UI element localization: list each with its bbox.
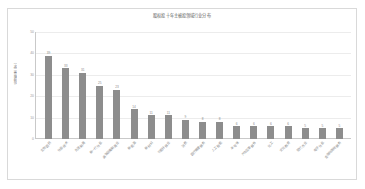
bar-value-label: 6 bbox=[236, 122, 238, 126]
bar-slot: 14 bbox=[126, 32, 143, 139]
y-axis-tick-label: 20 bbox=[30, 94, 34, 98]
x-axis-tick-label: 半导体 bbox=[230, 141, 240, 151]
bar-series: 39333125231411119886666555 bbox=[35, 32, 351, 139]
bar[interactable]: 5 bbox=[302, 128, 309, 139]
x-label-slot: 新能源 bbox=[126, 140, 143, 185]
bar[interactable]: 39 bbox=[45, 56, 52, 139]
bar-value-label: 6 bbox=[287, 122, 289, 126]
bar[interactable]: 8 bbox=[199, 122, 206, 139]
x-axis-tick-label: 电子信息 bbox=[313, 141, 325, 153]
x-label-slot: 新一代信息 bbox=[91, 140, 108, 185]
y-axis-tick-labels: 01020304050 bbox=[22, 32, 34, 139]
bar[interactable]: 14 bbox=[131, 109, 138, 139]
bar-slot: 5 bbox=[331, 32, 348, 139]
chart-container: 股权投十年主被投领域行业分布 投资数量（家） 01020304050 39333… bbox=[7, 8, 357, 180]
y-axis-tick-label: 40 bbox=[30, 51, 34, 55]
bar-slot: 39 bbox=[40, 32, 57, 139]
bar-slot: 8 bbox=[211, 32, 228, 139]
bar-value-label: 33 bbox=[64, 64, 68, 68]
x-label-slot: 半导体 bbox=[228, 140, 245, 185]
x-label-slot: 先进制造 bbox=[74, 140, 91, 185]
x-axis-tick-label: 新材料 bbox=[145, 141, 155, 151]
x-axis-tick-labels: 生物医药信息技术先进制造新一代信息高端装备制造业新能源新材料节能环保业消费医疗健… bbox=[35, 140, 351, 185]
bar[interactable]: 31 bbox=[79, 73, 86, 139]
x-label-slot: 现代农业 bbox=[297, 140, 314, 185]
bar[interactable]: 8 bbox=[216, 122, 223, 139]
bar-slot: 6 bbox=[228, 32, 245, 139]
bar-value-label: 5 bbox=[304, 124, 306, 128]
bar-value-label: 6 bbox=[270, 122, 272, 126]
chart-screenshot: 股权投十年主被投领域行业分布 投资数量（家） 01020304050 39333… bbox=[0, 0, 365, 189]
bar[interactable]: 6 bbox=[250, 126, 257, 139]
bar-value-label: 11 bbox=[150, 111, 153, 115]
x-axis-tick-label: 消费 bbox=[181, 141, 188, 148]
bar-value-label: 5 bbox=[321, 124, 323, 128]
bar[interactable]: 23 bbox=[113, 90, 120, 139]
bar[interactable]: 25 bbox=[96, 86, 103, 140]
x-label-slot: 文化教育 bbox=[280, 140, 297, 185]
bar-value-label: 25 bbox=[98, 81, 102, 85]
x-axis-tick-label: 生物医药 bbox=[40, 141, 52, 153]
bar-slot: 8 bbox=[194, 32, 211, 139]
bar-value-label: 6 bbox=[253, 122, 255, 126]
chart-title: 股权投十年主被投领域行业分布 bbox=[8, 13, 356, 19]
x-axis-tick-label: 新一代信息 bbox=[89, 141, 103, 155]
bar-slot: 25 bbox=[91, 32, 108, 139]
bar-value-label: 14 bbox=[132, 105, 136, 109]
x-label-slot: 金融与其他服务 bbox=[331, 140, 348, 185]
x-label-slot: 电子信息 bbox=[314, 140, 331, 185]
bar-slot: 5 bbox=[314, 32, 331, 139]
bar-slot: 23 bbox=[108, 32, 125, 139]
y-axis-tick-label: 30 bbox=[30, 73, 34, 77]
x-label-slot: 化工 bbox=[262, 140, 279, 185]
x-axis-tick-label: 新能源 bbox=[127, 141, 137, 151]
x-label-slot: 新材料 bbox=[143, 140, 160, 185]
bar-slot: 9 bbox=[177, 32, 194, 139]
bar-slot: 6 bbox=[262, 32, 279, 139]
bar-slot: 11 bbox=[160, 32, 177, 139]
bar-slot: 6 bbox=[280, 32, 297, 139]
bar-value-label: 31 bbox=[81, 68, 85, 72]
bar-value-label: 9 bbox=[185, 115, 187, 119]
bar[interactable]: 5 bbox=[336, 128, 343, 139]
plot-area: 39333125231411119886666555 bbox=[35, 32, 351, 139]
x-label-slot: 人工智能 bbox=[211, 140, 228, 185]
x-label-slot: 生物医药 bbox=[40, 140, 57, 185]
bar-value-label: 8 bbox=[202, 117, 204, 121]
y-axis-tick-label: 50 bbox=[30, 30, 34, 34]
bar[interactable]: 33 bbox=[62, 68, 69, 139]
bar-value-label: 23 bbox=[115, 85, 119, 89]
bar-slot: 6 bbox=[245, 32, 262, 139]
x-axis-tick-label: 人工智能 bbox=[211, 141, 223, 153]
bar-slot: 11 bbox=[143, 32, 160, 139]
x-label-slot: 高端装备制造业 bbox=[108, 140, 125, 185]
x-axis-tick-label: 化工 bbox=[267, 141, 274, 148]
bar-slot: 5 bbox=[297, 32, 314, 139]
y-axis-title: 投资数量（家） bbox=[12, 61, 22, 84]
x-axis-tick-label: 现代农业 bbox=[296, 141, 308, 153]
bar[interactable]: 9 bbox=[182, 120, 189, 139]
bar-slot: 33 bbox=[57, 32, 74, 139]
x-axis-tick-label: 文化教育 bbox=[279, 141, 291, 153]
y-axis-tick-label: 10 bbox=[30, 116, 34, 120]
bar[interactable]: 11 bbox=[165, 115, 172, 139]
bar[interactable]: 6 bbox=[233, 126, 240, 139]
x-label-slot: 信息技术 bbox=[57, 140, 74, 185]
x-axis-tick-label: 信息技术 bbox=[57, 141, 69, 153]
bar-value-label: 11 bbox=[167, 111, 170, 115]
x-label-slot: 消费 bbox=[177, 140, 194, 185]
bar-value-label: 5 bbox=[339, 124, 341, 128]
bar-value-label: 8 bbox=[219, 117, 221, 121]
bar-slot: 31 bbox=[74, 32, 91, 139]
bar[interactable]: 6 bbox=[285, 126, 292, 139]
x-label-slot: 汽车及零部件 bbox=[245, 140, 262, 185]
y-axis-tick-label: 0 bbox=[32, 137, 34, 141]
x-axis-tick-label: 先进制造 bbox=[74, 141, 86, 153]
x-label-slot: 节能环保业 bbox=[160, 140, 177, 185]
x-label-slot: 医疗健康服务 bbox=[194, 140, 211, 185]
bar-value-label: 39 bbox=[47, 51, 51, 55]
bar[interactable]: 6 bbox=[267, 126, 274, 139]
bar[interactable]: 11 bbox=[148, 115, 155, 139]
x-axis-tick-label: 节能环保业 bbox=[157, 141, 171, 155]
bar[interactable]: 5 bbox=[319, 128, 326, 139]
